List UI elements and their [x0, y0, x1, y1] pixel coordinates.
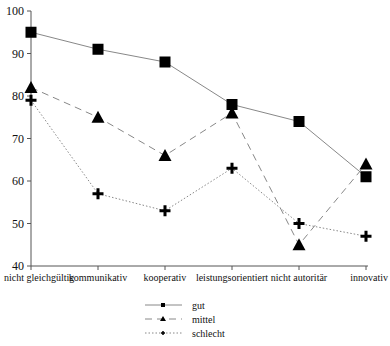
- y-tick-label: 60: [12, 174, 24, 188]
- triangle-marker: [293, 238, 306, 250]
- y-tick-label: 80: [12, 89, 24, 103]
- x-tick-label: nicht autoritär: [271, 272, 328, 283]
- plus-marker: [361, 231, 372, 242]
- y-tick-label: 40: [12, 259, 24, 273]
- plus-marker: [160, 205, 171, 216]
- series-line: [31, 32, 366, 177]
- square-marker: [161, 303, 165, 307]
- square-marker: [26, 27, 37, 38]
- line-chart: 405060708090100nicht gleichgültigkommuni…: [0, 0, 390, 346]
- triangle-marker: [360, 158, 373, 170]
- y-tick-label: 70: [12, 132, 24, 146]
- legend-item-mittel: mittel: [145, 314, 216, 325]
- legend: gutmittelschlecht: [145, 300, 225, 339]
- legend-label: mittel: [192, 314, 216, 325]
- y-tick-label: 50: [12, 217, 24, 231]
- triangle-marker: [25, 81, 38, 93]
- x-tick-label: innovativ: [350, 272, 388, 283]
- series-line: [31, 88, 366, 245]
- legend-item-schlecht: schlecht: [145, 328, 225, 339]
- plus-marker: [161, 331, 165, 335]
- triangle-marker: [92, 111, 105, 123]
- y-tick-label: 90: [12, 47, 24, 61]
- x-tick-label: kooperativ: [144, 272, 187, 283]
- square-marker: [160, 57, 171, 68]
- square-marker: [361, 171, 372, 182]
- x-tick-label: kommunikativ: [69, 272, 127, 283]
- x-tick-label: leistungsorientiert: [196, 272, 268, 283]
- series-line: [31, 100, 366, 236]
- plus-marker: [227, 163, 238, 174]
- legend-item-gut: gut: [145, 300, 205, 311]
- legend-label: schlecht: [192, 328, 225, 339]
- series-group: [25, 27, 373, 251]
- x-tick-label: nicht gleichgültig: [4, 272, 74, 283]
- square-marker: [93, 44, 104, 55]
- square-marker: [294, 116, 305, 127]
- triangle-marker: [159, 149, 172, 161]
- legend-label: gut: [192, 300, 205, 311]
- plus-marker: [93, 188, 104, 199]
- plus-marker: [294, 218, 305, 229]
- series-mittel: [25, 81, 373, 250]
- y-tick-label: 100: [6, 4, 24, 18]
- series-gut: [26, 27, 372, 183]
